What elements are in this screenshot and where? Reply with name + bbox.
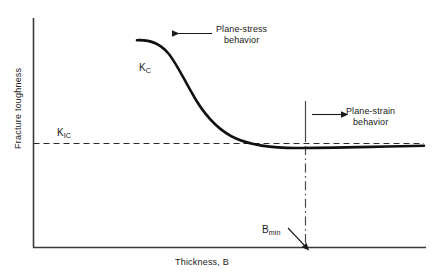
kc-curve-label: KC	[139, 62, 151, 75]
bmin-subscript: min	[269, 228, 281, 237]
bmin-label: Bmin	[262, 224, 281, 237]
plane-strain-line-2: behavior	[346, 117, 395, 128]
plane-strain-annotation: Plane-strain behavior	[346, 106, 395, 127]
fracture-toughness-diagram: Fracture toughness Thickness, B KC KIC B…	[0, 0, 442, 279]
x-axis-label: Thickness, B	[175, 257, 229, 268]
kic-label: KIC	[57, 127, 71, 140]
fracture-toughness-curve	[137, 40, 424, 148]
plane-stress-annotation: Plane-stress behavior	[216, 24, 267, 45]
plane-strain-line-1: Plane-strain	[346, 106, 395, 117]
y-axis-label: Fracture toughness	[13, 43, 24, 173]
kc-subscript: C	[146, 66, 151, 75]
kc-symbol: K	[139, 62, 146, 73]
kic-subscript: IC	[64, 131, 71, 140]
bmin-arrow-icon	[288, 228, 304, 245]
bmin-symbol: B	[262, 224, 269, 235]
plane-stress-line-2: behavior	[216, 35, 267, 46]
plane-stress-line-1: Plane-stress	[216, 24, 267, 35]
kic-symbol: K	[57, 127, 64, 138]
